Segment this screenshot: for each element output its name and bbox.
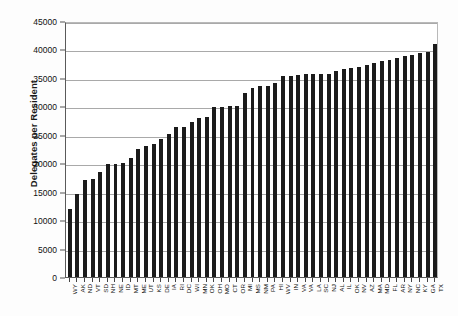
x-tick-mark xyxy=(320,278,321,282)
x-tick-label: ME xyxy=(140,284,147,293)
bar xyxy=(114,164,118,277)
x-tick-mark xyxy=(427,278,428,282)
bar xyxy=(342,69,346,277)
x-tick-mark xyxy=(267,278,268,282)
x-tick-label: WI xyxy=(193,284,200,292)
x-tick-mark xyxy=(290,278,291,282)
x-tick-label: TX xyxy=(437,284,444,292)
x-tick-label: NC xyxy=(414,284,421,293)
x-tick-label: VA xyxy=(300,284,307,292)
x-tick-mark xyxy=(274,278,275,282)
bar xyxy=(91,179,95,277)
y-tick-label: 10000 xyxy=(33,216,57,226)
x-tick-label: MN xyxy=(201,284,208,294)
x-tick-label: KY xyxy=(421,284,428,292)
x-tick-mark xyxy=(175,278,176,282)
x-tick-mark xyxy=(381,278,382,282)
x-tick-mark xyxy=(404,278,405,282)
x-tick-mark xyxy=(130,278,131,282)
x-tick-mark xyxy=(92,278,93,282)
y-tick-label: 30000 xyxy=(33,102,57,112)
x-tick-mark xyxy=(213,278,214,282)
x-tick-label: VA xyxy=(307,284,314,292)
x-tick-mark xyxy=(373,278,374,282)
y-tick-label: 0 xyxy=(52,273,57,283)
bar xyxy=(327,74,331,277)
x-tick-label: OH xyxy=(216,284,223,293)
bar xyxy=(418,53,422,277)
bar xyxy=(197,118,201,277)
bar xyxy=(426,52,430,277)
x-tick-mark xyxy=(328,278,329,282)
bar xyxy=(273,83,277,277)
x-tick-mark xyxy=(191,278,192,282)
x-tick-mark xyxy=(259,278,260,282)
x-tick-label: MD xyxy=(383,284,390,294)
x-tick-label: NJ xyxy=(330,284,337,292)
x-tick-label: KS xyxy=(155,284,162,292)
x-tick-mark xyxy=(229,278,230,282)
y-tick-label: 40000 xyxy=(33,45,57,55)
bar xyxy=(395,58,399,277)
bar xyxy=(167,134,171,277)
x-tick-mark xyxy=(84,278,85,282)
x-tick-label: GA xyxy=(429,284,436,293)
x-tick-label: ID xyxy=(124,284,131,290)
x-tick-mark xyxy=(168,278,169,282)
x-tick-label: OK xyxy=(353,284,360,293)
x-tick-mark xyxy=(145,278,146,282)
bar xyxy=(152,144,156,277)
bar xyxy=(372,63,376,277)
bar xyxy=(410,55,414,277)
bar xyxy=(296,75,300,277)
bar xyxy=(251,88,255,277)
x-tick-label: OK xyxy=(208,284,215,293)
bar xyxy=(289,76,293,277)
bar xyxy=(220,107,224,277)
x-tick-mark xyxy=(396,278,397,282)
x-tick-label: SC xyxy=(322,284,329,293)
bar xyxy=(144,146,148,277)
bar xyxy=(433,44,437,277)
x-tick-label: NH xyxy=(109,284,116,293)
x-tick-label: MA xyxy=(376,284,383,293)
bar xyxy=(98,172,102,277)
bar xyxy=(266,86,270,277)
x-tick-mark xyxy=(335,278,336,282)
x-tick-mark xyxy=(358,278,359,282)
bar xyxy=(304,74,308,277)
x-tick-label: NY xyxy=(406,284,413,293)
bar xyxy=(380,61,384,277)
bar xyxy=(388,60,392,277)
bar xyxy=(311,74,315,277)
x-tick-label: IL xyxy=(345,284,352,289)
x-tick-label: VT xyxy=(94,284,101,292)
x-tick-mark xyxy=(305,278,306,282)
x-tick-label: MS xyxy=(254,284,261,293)
x-axis-ticks-and-labels: WYAKNDVTSDNHNEIDMTMEUTKSDEIARIDCWIMNOKOH… xyxy=(65,278,438,316)
x-tick-mark xyxy=(122,278,123,282)
x-tick-label: SD xyxy=(102,284,109,293)
x-tick-mark xyxy=(312,278,313,282)
x-tick-label: WY xyxy=(71,284,78,294)
x-tick-label: AR xyxy=(399,284,406,293)
x-tick-label: RI xyxy=(178,284,185,290)
x-tick-mark xyxy=(434,278,435,282)
y-tick-label: 35000 xyxy=(33,74,57,84)
x-tick-mark xyxy=(350,278,351,282)
x-tick-label: DC xyxy=(185,284,192,293)
x-tick-label: MI xyxy=(246,284,253,291)
bar xyxy=(190,122,194,277)
x-tick-mark xyxy=(252,278,253,282)
x-tick-mark xyxy=(198,278,199,282)
bar xyxy=(334,71,338,278)
bar xyxy=(159,139,163,277)
x-tick-mark xyxy=(297,278,298,282)
x-tick-label: PA xyxy=(269,284,276,292)
bar xyxy=(243,93,247,277)
x-tick-label: AK xyxy=(79,284,86,292)
y-tick-label: 25000 xyxy=(33,131,57,141)
bar xyxy=(235,106,239,277)
x-tick-mark xyxy=(236,278,237,282)
x-tick-mark xyxy=(366,278,367,282)
